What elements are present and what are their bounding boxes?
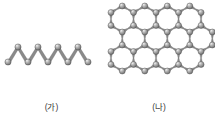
atom-node [153,49,159,55]
atom-node [142,68,148,74]
atom-node [119,42,125,48]
honeycomb-lattice-structure [103,0,215,100]
atom-node [176,49,182,55]
atom-node [142,3,148,9]
atom-node [45,59,51,65]
atom-node [131,62,137,68]
atom-node [176,62,182,68]
atom-node [198,49,204,55]
atom-node [119,68,125,74]
atom-node [153,62,159,68]
atom-node [131,49,137,55]
atom-node [5,59,11,65]
atom-node [55,44,61,50]
lattice-atoms [108,3,215,74]
atom-node [187,68,193,74]
atom-node [187,3,193,9]
atom-node [209,42,215,48]
panel-honeycomb-lattice: (나) [103,0,215,128]
atom-node [35,44,41,50]
atom-node [65,59,71,65]
atom-node [198,10,204,16]
atom-node [75,44,81,50]
atom-node [187,29,193,35]
atom-node [187,42,193,48]
atom-node [142,42,148,48]
atom-node [209,29,215,35]
atom-node [108,23,114,29]
zigzag-chain-structure [0,0,103,100]
atom-node [164,29,170,35]
atom-node [119,3,125,9]
atom-node [164,3,170,9]
caption-panel-b: (나) [103,103,215,112]
zigzag-atoms [5,44,91,65]
atom-node [164,42,170,48]
atom-node [131,10,137,16]
atom-node [198,23,204,29]
atom-node [176,23,182,29]
atom-node [108,49,114,55]
atom-node [85,59,91,65]
atom-node [153,10,159,16]
atom-node [108,62,114,68]
atom-node [15,44,21,50]
atom-node [131,23,137,29]
caption-panel-a: (가) [0,103,103,112]
atom-node [153,23,159,29]
figure-root: (가) (나) [0,0,215,128]
atom-node [25,59,31,65]
atom-node [119,29,125,35]
atom-node [198,62,204,68]
lattice-bonds [109,5,214,73]
atom-node [176,10,182,16]
atom-node [142,29,148,35]
atom-node [108,10,114,16]
atom-node [164,68,170,74]
panel-zigzag-chain: (가) [0,0,103,128]
